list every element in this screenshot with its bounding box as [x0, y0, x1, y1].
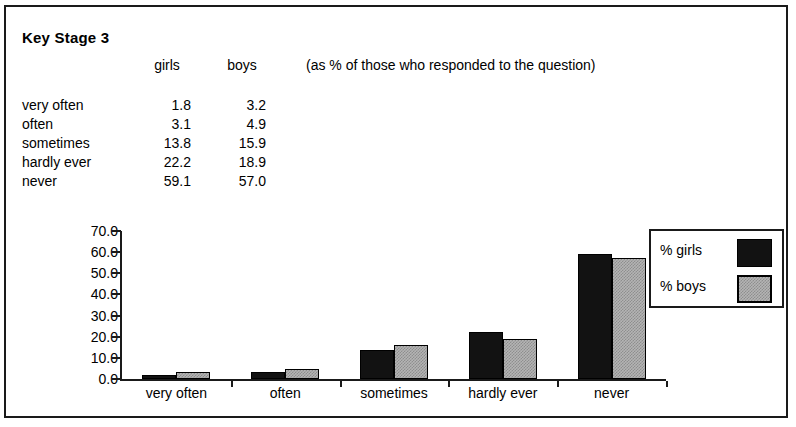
x-axis-tick-mark	[557, 381, 559, 387]
y-axis-tick-label: 60.0	[46, 245, 118, 259]
bar-boys	[176, 372, 210, 379]
x-axis-tick-label: often	[231, 385, 340, 401]
bar-girls	[251, 372, 285, 379]
x-axis-line	[120, 379, 666, 381]
y-axis-tick-label: 70.0	[46, 224, 118, 238]
y-axis-tick-label: 50.0	[46, 266, 118, 280]
legend-swatch	[737, 275, 772, 303]
x-axis-tick-label: hardly ever	[448, 385, 557, 401]
y-axis-tick-label: 40.0	[46, 287, 118, 301]
y-axis-tick-label: 20.0	[46, 330, 118, 344]
x-axis-tick-label: sometimes	[340, 385, 449, 401]
y-axis-tick-label: 10.0	[46, 351, 118, 365]
x-axis-tick-mark	[448, 381, 450, 387]
bar-boys	[612, 258, 646, 379]
y-axis-line	[120, 231, 122, 381]
bar-boys	[503, 339, 537, 379]
x-axis-tick-label: never	[557, 385, 666, 401]
bar-girls	[142, 375, 176, 379]
x-axis-tick-label: very often	[122, 385, 231, 401]
legend-label: % boys	[660, 278, 706, 294]
legend-swatch	[737, 239, 772, 267]
bar-girls	[360, 350, 394, 379]
bar-chart: 0.010.020.030.040.050.060.070.0 very oft…	[6, 7, 796, 427]
legend-item: % girls	[651, 236, 782, 270]
legend-item: % boys	[651, 272, 782, 306]
y-axis-tick-label: 30.0	[46, 309, 118, 323]
bar-girls	[578, 254, 612, 379]
figure-frame: Key Stage 3 girls boys (as % of those wh…	[4, 5, 788, 418]
x-axis-tick-mark	[666, 381, 668, 387]
y-axis-tick-label: 0.0	[46, 372, 118, 386]
bar-girls	[469, 332, 503, 379]
legend-label: % girls	[660, 242, 702, 258]
bar-boys	[394, 345, 428, 379]
chart-legend: % girls% boys	[649, 229, 784, 308]
bar-boys	[285, 369, 319, 379]
x-axis-tick-mark	[340, 381, 342, 387]
x-axis-tick-mark	[231, 381, 233, 387]
